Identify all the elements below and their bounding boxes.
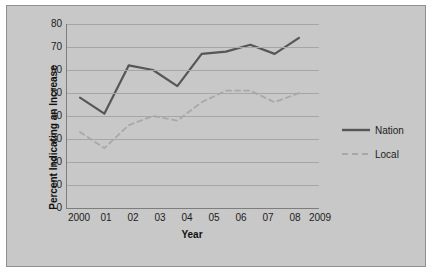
x-axis-tick-labels: 2000 01 02 03 04 05 06 07 08 2009	[66, 212, 318, 226]
series-line-nation	[80, 38, 299, 114]
x-tick-label: 06	[235, 212, 246, 224]
y-tick-label: 30	[20, 134, 62, 144]
gridline	[67, 47, 319, 48]
y-tick-label: 20	[20, 157, 62, 167]
x-axis-title: Year	[66, 229, 318, 240]
y-tick-label: 50	[20, 88, 62, 98]
y-tick-label: 40	[20, 111, 62, 121]
x-tick-label: 08	[289, 212, 300, 224]
y-tick-label: 0	[20, 203, 62, 213]
x-tick-label: 05	[208, 212, 219, 224]
y-tick-label: 60	[20, 65, 62, 75]
plot-area	[66, 24, 319, 209]
x-tick-label: 2009	[309, 212, 331, 224]
y-tick-label: 70	[20, 42, 62, 52]
gridline	[67, 162, 319, 163]
legend-item-nation: Nation	[342, 118, 420, 142]
gridline	[67, 70, 319, 71]
y-tick-label: 10	[20, 180, 62, 190]
gridline	[67, 139, 319, 140]
gridline	[67, 185, 319, 186]
x-tick-label: 02	[127, 212, 138, 224]
gridline	[67, 116, 319, 117]
legend-item-local: Local	[342, 142, 420, 166]
chart-legend: Nation Local	[342, 118, 420, 166]
y-axis-tick-labels: 80 70 60 50 40 30 20 10 0	[18, 24, 62, 208]
legend-label-nation: Nation	[375, 125, 404, 136]
chart-figure: Percent Indicating an Increase 80 70 60 …	[0, 0, 434, 275]
x-tick-label: 07	[262, 212, 273, 224]
gridline	[67, 93, 319, 94]
legend-swatch-nation-icon	[342, 125, 370, 135]
x-tick-label: 04	[181, 212, 192, 224]
y-tick-label: 80	[20, 19, 62, 29]
x-tick-label: 01	[100, 212, 111, 224]
gridline	[67, 24, 319, 25]
x-tick-label: 2000	[68, 212, 90, 224]
legend-swatch-local-icon	[342, 149, 370, 159]
legend-label-local: Local	[375, 149, 399, 160]
x-tick-label: 03	[154, 212, 165, 224]
